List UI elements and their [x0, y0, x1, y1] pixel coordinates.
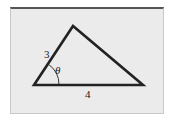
- side-left-label: 3: [44, 48, 50, 60]
- triangle: [34, 26, 143, 85]
- triangle-diagram: 3 θ 4: [0, 0, 175, 120]
- angle-label: θ: [55, 64, 61, 76]
- side-bottom-label: 4: [85, 88, 91, 100]
